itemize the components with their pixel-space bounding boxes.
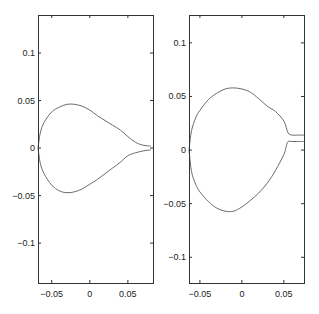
y-tick-label: 0.05 bbox=[17, 96, 35, 106]
upper-contour-line bbox=[38, 104, 151, 148]
y-tick-label: −0.1 bbox=[168, 252, 186, 262]
y-tick-label: −0.1 bbox=[17, 238, 35, 248]
x-tick-label: 0.05 bbox=[119, 289, 137, 299]
chart-canvas: −0.0500.050.10.050−0.05−0.1 −0.0500.050.… bbox=[0, 0, 319, 314]
axes-frame bbox=[39, 16, 154, 284]
x-tick-label: 0 bbox=[239, 289, 244, 299]
y-tick-label: 0.1 bbox=[22, 48, 35, 58]
x-tick-label: 0 bbox=[87, 289, 92, 299]
lower-contour-line bbox=[189, 141, 304, 211]
y-tick-label: 0 bbox=[30, 143, 35, 153]
right-plot-panel: −0.0500.050.10.050−0.05−0.1 bbox=[163, 15, 304, 299]
y-tick-label: −0.05 bbox=[12, 191, 35, 201]
y-tick-label: 0.1 bbox=[173, 38, 186, 48]
axes-frame bbox=[190, 16, 305, 284]
y-tick-label: −0.05 bbox=[163, 199, 186, 209]
left-plot-panel: −0.0500.050.10.050−0.05−0.1 bbox=[12, 15, 153, 299]
lower-contour-line bbox=[38, 148, 151, 193]
x-tick-label: 0.05 bbox=[275, 289, 293, 299]
x-tick-label: −0.05 bbox=[189, 289, 212, 299]
x-tick-label: −0.05 bbox=[40, 289, 63, 299]
y-tick-label: 0 bbox=[181, 145, 186, 155]
y-tick-label: 0.05 bbox=[168, 91, 186, 101]
upper-contour-line bbox=[189, 88, 304, 150]
